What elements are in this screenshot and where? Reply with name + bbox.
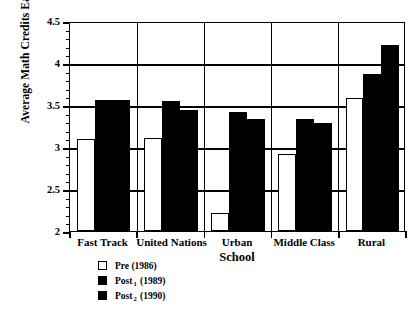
y-axis-minor-tick [66, 199, 71, 200]
plot-area [69, 22, 405, 232]
y-axis-tick-label: 2.5 [47, 185, 60, 196]
y-axis-tick-label: 2 [55, 227, 60, 238]
y-axis-minor-tick [66, 165, 71, 166]
y-axis-minor-tick [66, 123, 71, 124]
y-axis-minor-tick [66, 90, 71, 91]
legend-label: Post1 (1989) [115, 276, 165, 286]
bar-urban-series1 [211, 213, 229, 231]
bar-middle-class-series3 [314, 123, 332, 231]
y-axis-minor-tick [66, 39, 71, 40]
legend-label: Pre (1986) [115, 261, 157, 271]
y-axis-minor-tick [66, 182, 71, 183]
y-axis-tick-label: 3.5 [47, 101, 60, 112]
y-axis-minor-tick [66, 224, 71, 225]
y-axis-major-tick [63, 106, 70, 108]
y-axis-minor-tick [66, 157, 71, 158]
legend-label: Post2 (1990) [115, 291, 165, 301]
y-axis-minor-tick [66, 56, 71, 57]
bar-rural-series3 [381, 45, 399, 231]
y-axis-minor-tick [66, 48, 71, 49]
bar-rural-series2 [363, 74, 381, 231]
bar-united-nations-series2 [162, 101, 180, 231]
legend-swatch [98, 291, 107, 300]
bar-fast-track-series3 [113, 100, 131, 231]
y-axis-minor-tick [66, 81, 71, 82]
bar-middle-class-series1 [278, 154, 296, 231]
y-axis-minor-tick [66, 73, 71, 74]
legend-item: Pre (1986) [75, 258, 275, 273]
y-axis-minor-tick [66, 31, 71, 32]
y-axis-major-tick [63, 148, 70, 150]
bar-chart-figure: Average Math Credits Earned 4.543.532.52… [0, 0, 420, 319]
legend-swatch [98, 261, 107, 270]
bar-fast-track-series1 [77, 139, 95, 231]
x-axis-tick [405, 231, 407, 238]
legend-item: Post2 (1990) [75, 288, 275, 303]
bar-urban-series3 [247, 119, 265, 231]
y-axis-tick-label: 4.5 [47, 17, 60, 28]
y-axis-major-tick [63, 64, 70, 66]
y-axis-minor-tick [66, 98, 71, 99]
bar-united-nations-series3 [180, 110, 198, 231]
y-axis-minor-tick [66, 132, 71, 133]
x-axis-category-label: Middle Class [271, 236, 338, 248]
y-axis-minor-tick [66, 207, 71, 208]
bar-middle-class-series2 [296, 119, 314, 231]
gridline-vertical [271, 23, 272, 231]
gridline-vertical [204, 23, 205, 231]
y-axis-title: Average Math Credits Earned [19, 0, 31, 148]
legend-swatch [98, 276, 107, 285]
bar-urban-series2 [229, 112, 247, 231]
y-axis-minor-tick [66, 115, 71, 116]
y-axis-minor-tick [66, 216, 71, 217]
legend-item: Post1 (1989) [75, 273, 275, 288]
x-axis-category-label: Fast Track [69, 236, 136, 248]
y-axis-tick-label: 3 [55, 143, 60, 154]
gridline-vertical [137, 23, 138, 231]
y-axis-major-tick [63, 190, 70, 192]
gridline-horizontal [70, 64, 404, 65]
y-axis-tick-label: 4 [55, 59, 60, 70]
gridline-vertical [338, 23, 339, 231]
chart-legend: Pre (1986)Post1 (1989)Post2 (1990) [75, 258, 275, 303]
x-axis-category-label: United Nations [136, 236, 203, 248]
y-axis-minor-tick [66, 140, 71, 141]
bar-fast-track-series2 [95, 100, 113, 231]
y-axis-major-tick [63, 22, 70, 24]
x-axis-category-label: Rural [338, 236, 405, 248]
y-axis-minor-tick [66, 174, 71, 175]
x-axis-category-label: Urban [203, 236, 270, 248]
bar-rural-series1 [346, 98, 364, 231]
bar-united-nations-series1 [144, 138, 162, 231]
